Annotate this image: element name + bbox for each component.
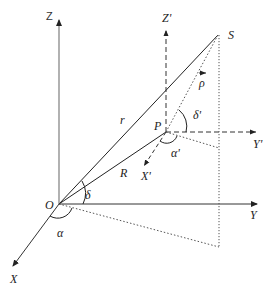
- coordinate-diagram: Z Y X O S P Z' Y' X' r R ρ δ α δ' α': [0, 0, 272, 294]
- label-X: X: [9, 272, 18, 286]
- x-axis: [13, 204, 59, 266]
- label-X-prime: X': [140, 169, 151, 183]
- label-Z: Z: [46, 10, 53, 22]
- dotted-P-S: [166, 35, 218, 132]
- x-prime-axis: [144, 132, 166, 166]
- delta-prime-arc: [179, 110, 187, 132]
- label-Y: Y: [250, 208, 258, 222]
- label-rho: ρ: [198, 76, 205, 90]
- label-alpha: α: [57, 226, 64, 240]
- line-R-OP: [59, 132, 166, 204]
- label-Z-prime: Z': [162, 11, 172, 25]
- label-r: r: [120, 113, 125, 127]
- label-P: P: [153, 119, 162, 133]
- dotted-O-ground-projection: [59, 204, 219, 247]
- label-S: S: [228, 28, 234, 42]
- alpha-prime-arc: [160, 136, 177, 143]
- diagram-canvas: Z Y X O S P Z' Y' X' r R ρ δ α δ' α': [0, 0, 272, 294]
- label-Y-prime: Y': [253, 137, 263, 151]
- label-R: R: [119, 166, 128, 180]
- label-O: O: [45, 198, 54, 212]
- label-delta-prime: δ': [193, 108, 202, 122]
- label-delta: δ: [85, 188, 91, 202]
- label-alpha-prime: α': [171, 146, 180, 160]
